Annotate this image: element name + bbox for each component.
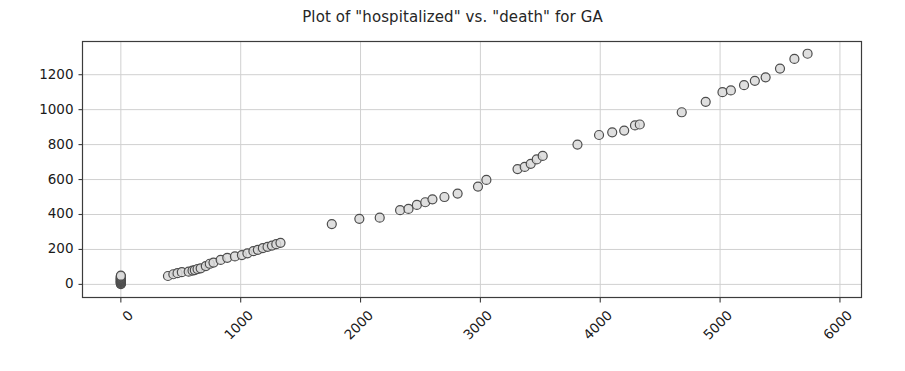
y-tick-label: 600 <box>48 171 74 187</box>
data-points <box>116 49 812 288</box>
y-tick-label: 1200 <box>39 66 73 82</box>
y-tick-label: 1000 <box>39 101 73 117</box>
scatter-plot-canvas <box>0 0 905 371</box>
y-tick-label: 400 <box>48 205 74 221</box>
y-tick-label: 800 <box>48 136 74 152</box>
chart-figure: Plot of "hospitalized" vs. "death" for G… <box>0 0 905 371</box>
plot-frame <box>83 42 862 298</box>
y-tick-label: 0 <box>65 275 74 291</box>
grid-lines <box>83 42 862 298</box>
y-tick-label: 200 <box>48 240 74 256</box>
